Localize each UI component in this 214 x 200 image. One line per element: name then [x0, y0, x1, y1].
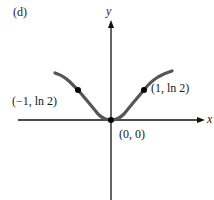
graph-panel: (d) y x (−1, ln 2) (1, ln 2) (0, 0) — [0, 0, 214, 200]
point-origin — [108, 117, 114, 123]
point-1-ln2 — [141, 87, 147, 93]
point-label-neg1-ln2: (−1, ln 2) — [12, 95, 57, 107]
y-axis-arrow-icon — [108, 20, 114, 28]
y-axis-label: y — [106, 5, 111, 17]
x-axis-label: x — [207, 113, 212, 125]
panel-label: (d) — [13, 6, 27, 18]
point-neg1-ln2 — [75, 87, 81, 93]
point-label-origin: (0, 0) — [119, 128, 145, 140]
curve-ln-1-plus-x-squared — [55, 71, 172, 120]
x-axis-arrow-icon — [197, 117, 205, 123]
point-label-1-ln2: (1, ln 2) — [151, 82, 189, 94]
